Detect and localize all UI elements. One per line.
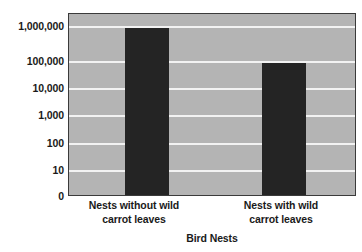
x-category-label-1: Nests without wild carrot leaves xyxy=(62,199,206,226)
y-tick-label: 100,000 xyxy=(0,56,64,67)
gridline xyxy=(69,88,355,90)
y-tick-label: 10 xyxy=(0,165,64,176)
y-tick-label: 1,000,000 xyxy=(0,21,64,32)
y-tick-label: 1,000 xyxy=(0,110,64,121)
y-tick-label: 0 xyxy=(0,191,64,202)
x-axis: Nests without wild carrot leaves Nests w… xyxy=(68,199,356,233)
plot-area xyxy=(68,13,356,196)
y-tick-label: 10,000 xyxy=(0,83,64,94)
bar-chart: 1,000,000 100,000 10,000 1,000 100 10 0 … xyxy=(0,0,362,252)
x-axis-title: Bird Nests xyxy=(68,232,356,244)
x-category-label-2-line1: Nests with wild xyxy=(244,199,318,211)
gridline xyxy=(69,115,355,117)
gridline xyxy=(69,143,355,145)
y-tick-label: 100 xyxy=(0,138,64,149)
gridline xyxy=(69,61,355,63)
bar-nests-without-wild-carrot-leaves xyxy=(125,28,169,195)
x-category-label-1-line2: carrot leaves xyxy=(62,213,206,227)
gridline xyxy=(69,26,355,28)
x-category-label-2: Nests with wild carrot leaves xyxy=(216,199,346,226)
gridline xyxy=(69,170,355,172)
y-axis: 1,000,000 100,000 10,000 1,000 100 10 0 xyxy=(0,0,64,252)
x-category-label-2-line2: carrot leaves xyxy=(216,213,346,227)
bar-nests-with-wild-carrot-leaves xyxy=(262,63,306,195)
x-category-label-1-line1: Nests without wild xyxy=(89,199,179,211)
